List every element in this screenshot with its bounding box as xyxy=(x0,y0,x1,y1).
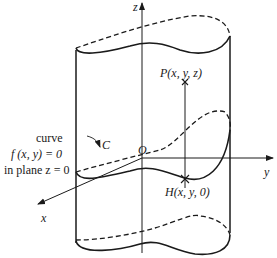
cylinder-diagram: z y x O P(x, y, z) H(x, y, 0) C curve f … xyxy=(0,0,277,258)
bottom-rim-back xyxy=(76,215,230,240)
top-rim-front xyxy=(76,36,230,53)
z-axis-label: z xyxy=(132,0,138,14)
bottom-rim-front xyxy=(76,235,230,254)
point-p-label: P(x, y, z) xyxy=(159,66,202,80)
curve-annotation-line1: curve xyxy=(36,131,63,145)
origin-label: O xyxy=(138,143,147,157)
point-h-label: H(x, y, 0) xyxy=(164,185,210,199)
curve-annotation-line3: in plane z = 0 xyxy=(4,163,69,177)
curve-annotation-arrow xyxy=(87,136,100,147)
x-axis-label: x xyxy=(40,211,47,225)
curve-c-label: C xyxy=(102,138,111,152)
curve-c-front xyxy=(76,130,230,179)
y-axis-label: y xyxy=(263,165,270,179)
curve-c-back xyxy=(76,111,230,172)
curve-annotation-line2: f (x, y) = 0 xyxy=(11,147,62,161)
